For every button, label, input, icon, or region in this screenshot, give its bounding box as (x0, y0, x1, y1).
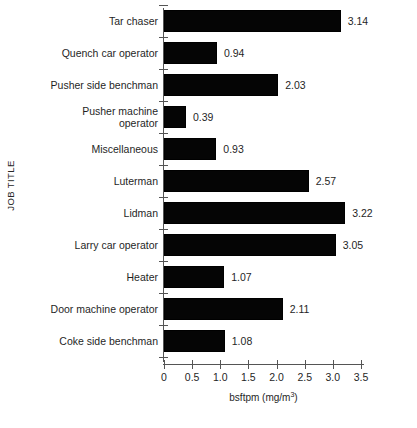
x-axis-tick (248, 360, 249, 369)
category-label: Lidman (22, 207, 158, 219)
bar (164, 74, 278, 96)
y-axis-tick (159, 197, 168, 198)
bar-chart-figure: JOB TITLE Tar chaserQuench car operatorP… (0, 0, 417, 428)
x-axis-tick-label: 3.5 (341, 371, 381, 383)
bar-value-label: 0.93 (223, 138, 243, 160)
y-axis-tick (159, 261, 168, 262)
bar (164, 202, 345, 224)
bar-value-label: 2.11 (290, 298, 310, 320)
bar (164, 170, 309, 192)
bar (164, 234, 336, 256)
category-label: Coke side benchman (22, 335, 158, 347)
bar-value-label: 3.22 (352, 202, 372, 224)
category-label: Pusher machine operator (22, 105, 158, 129)
category-label: Door machine operator (22, 303, 158, 315)
bar-value-label: 0.94 (224, 42, 244, 64)
y-axis-title: JOB TITLE (0, 0, 20, 370)
bar (164, 42, 217, 64)
x-axis-tick (192, 360, 193, 369)
y-axis-tick (159, 229, 168, 230)
x-axis-tick (305, 360, 306, 369)
category-label: Pusher side benchman (22, 79, 158, 91)
x-axis-title-base: bsftpm (mg/m (229, 392, 290, 403)
category-label: Heater (22, 271, 158, 283)
x-axis-title: bsftpm (mg/m3) (163, 392, 364, 403)
bar (164, 10, 341, 32)
y-axis-tick (159, 293, 168, 294)
y-axis-tick (159, 37, 168, 38)
y-axis-title-text: JOB TITLE (5, 160, 16, 210)
x-axis-tick-labels: 00.51.01.52.02.53.03.5 (143, 371, 384, 385)
plot-area: 3.140.942.030.390.932.573.223.051.072.11… (163, 8, 364, 362)
x-axis-tick (333, 360, 334, 369)
bar-value-label: 2.57 (316, 170, 336, 192)
category-label: Luterman (22, 175, 158, 187)
x-axis-line (163, 364, 364, 365)
category-label: Tar chaser (22, 15, 158, 27)
bar-value-label: 2.03 (285, 74, 305, 96)
bar-value-label: 3.05 (343, 234, 363, 256)
y-axis-tick (159, 325, 168, 326)
y-axis-tick (159, 133, 168, 134)
bar (164, 138, 216, 160)
y-axis-tick (159, 5, 168, 6)
bar (164, 330, 225, 352)
y-axis-tick (159, 357, 168, 358)
bar (164, 266, 224, 288)
x-axis-tick (220, 360, 221, 369)
y-axis-tick (159, 101, 168, 102)
category-axis-labels: Tar chaserQuench car operatorPusher side… (22, 8, 158, 362)
bar (164, 298, 283, 320)
y-axis-tick (159, 165, 168, 166)
bar-value-label: 1.07 (231, 266, 251, 288)
category-label: Larry car operator (22, 239, 158, 251)
category-label: Miscellaneous (22, 143, 158, 155)
x-axis-title-tail: ) (294, 392, 297, 403)
x-axis-tick (164, 360, 165, 369)
bar (164, 106, 186, 128)
category-label: Quench car operator (22, 47, 158, 59)
y-axis-tick (159, 69, 168, 70)
bar-value-label: 1.08 (232, 330, 252, 352)
bar-value-label: 3.14 (348, 10, 368, 32)
bar-value-label: 0.39 (193, 106, 213, 128)
x-axis-tick (361, 360, 362, 369)
x-axis-tick (277, 360, 278, 369)
